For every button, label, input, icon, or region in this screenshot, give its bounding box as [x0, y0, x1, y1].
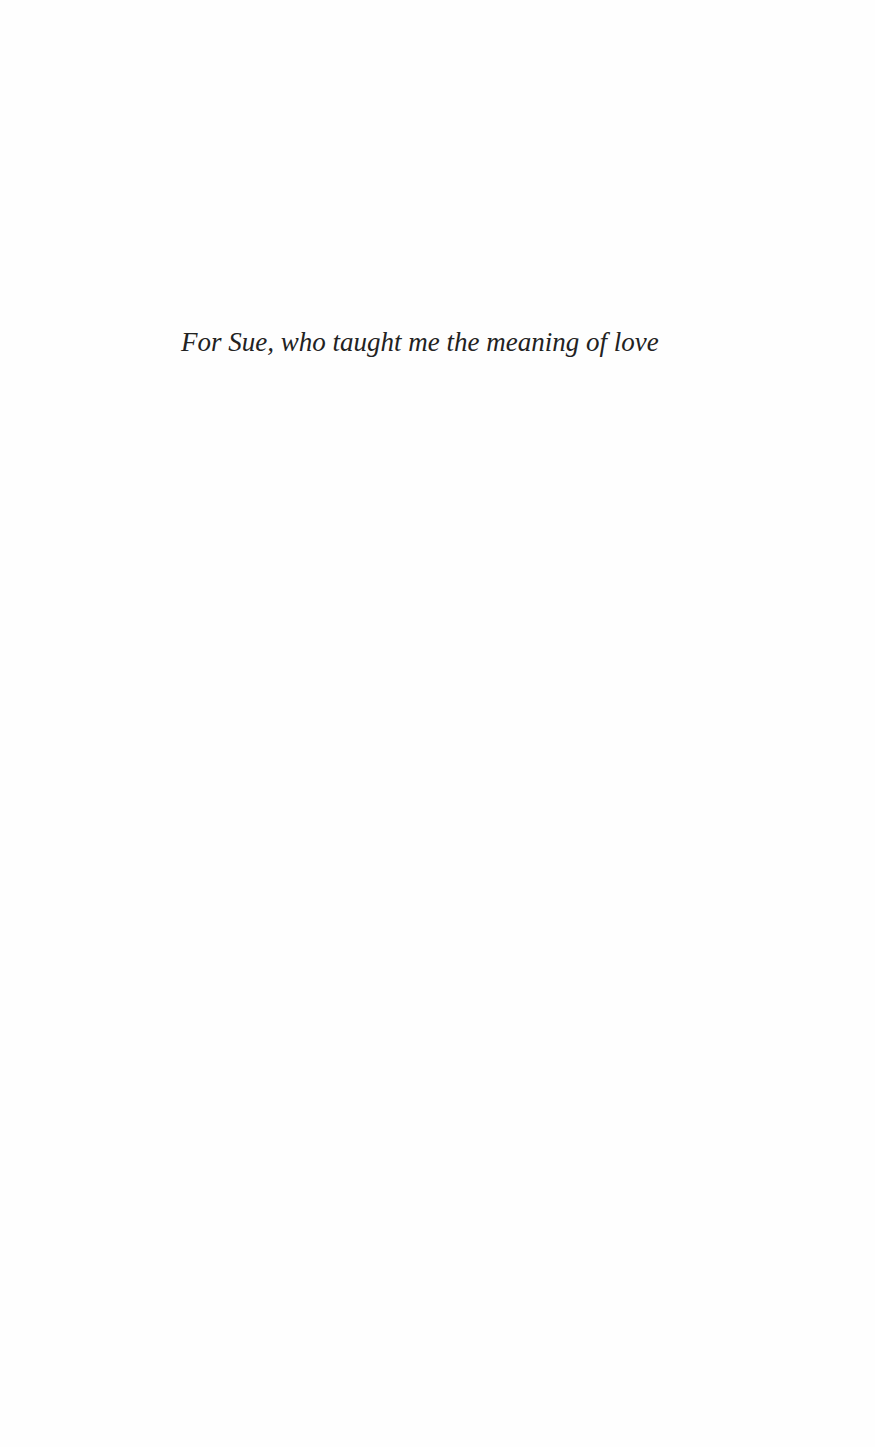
book-page: For Sue, who taught me the meaning of lo…: [0, 0, 875, 1447]
dedication-text: For Sue, who taught me the meaning of lo…: [181, 327, 659, 358]
